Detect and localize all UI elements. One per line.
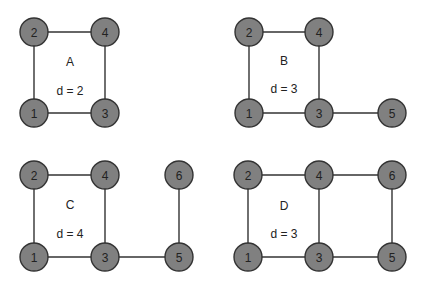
node-6: 6 [165, 161, 193, 189]
node-5: 5 [378, 99, 406, 127]
node-1: 1 [234, 243, 262, 271]
node-1: 1 [20, 243, 48, 271]
node-label: 6 [176, 169, 183, 183]
graph-d: 123456Dd = 3 [234, 161, 406, 271]
graph-a: 1234Ad = 2 [20, 18, 119, 127]
node-label: 2 [246, 26, 253, 40]
node-1: 1 [20, 99, 48, 127]
node-label: 4 [316, 169, 323, 183]
node-3: 3 [91, 243, 119, 271]
node-label: 3 [102, 251, 109, 265]
node-label: 3 [102, 107, 109, 121]
node-4: 4 [305, 18, 333, 46]
node-label: 5 [176, 251, 183, 265]
node-label: 1 [245, 251, 252, 265]
node-5: 5 [378, 243, 406, 271]
diameter-label: d = 4 [56, 227, 83, 241]
node-label: 2 [31, 169, 38, 183]
graph-c: 123456Cd = 4 [20, 161, 193, 271]
graph-name: B [280, 54, 288, 68]
node-1: 1 [235, 99, 263, 127]
node-label: 5 [389, 107, 396, 121]
node-label: 4 [102, 169, 109, 183]
node-6: 6 [378, 161, 406, 189]
node-label: 1 [31, 251, 38, 265]
node-4: 4 [91, 161, 119, 189]
node-label: 4 [316, 26, 323, 40]
node-label: 2 [245, 169, 252, 183]
node-label: 6 [389, 169, 396, 183]
diameter-label: d = 3 [270, 227, 297, 241]
node-4: 4 [91, 18, 119, 46]
diameter-label: d = 2 [56, 84, 83, 98]
node-3: 3 [305, 99, 333, 127]
node-label: 3 [316, 107, 323, 121]
diameter-label: d = 3 [270, 82, 297, 96]
node-label: 5 [389, 251, 396, 265]
graph-b: 12345Bd = 3 [235, 18, 406, 127]
node-3: 3 [305, 243, 333, 271]
node-label: 2 [31, 26, 38, 40]
node-2: 2 [234, 161, 262, 189]
graph-name: A [66, 55, 74, 69]
node-label: 3 [316, 251, 323, 265]
graph-name: C [66, 198, 75, 212]
node-label: 1 [31, 107, 38, 121]
graph-name: D [280, 199, 289, 213]
node-3: 3 [91, 99, 119, 127]
node-label: 4 [102, 26, 109, 40]
node-5: 5 [165, 243, 193, 271]
node-2: 2 [20, 18, 48, 46]
node-label: 1 [246, 107, 253, 121]
graph-diagram: 1234Ad = 212345Bd = 3123456Cd = 4123456D… [0, 0, 426, 288]
node-2: 2 [235, 18, 263, 46]
node-2: 2 [20, 161, 48, 189]
node-4: 4 [305, 161, 333, 189]
